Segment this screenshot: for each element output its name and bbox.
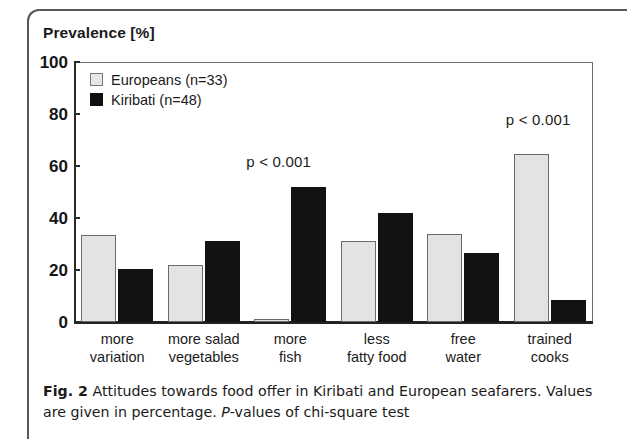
bar-kiribati-1: [205, 241, 240, 322]
y-tick-label: 40: [28, 210, 68, 227]
x-label-line2: water: [420, 348, 507, 366]
bar-chart: Prevalence [%] 020406080100 p < 0.001p <…: [0, 0, 613, 378]
chart-legend: Europeans (n=33) Kiribati (n=48): [90, 70, 227, 110]
x-label-line2: fish: [247, 348, 334, 366]
bar-europeans-3: [341, 241, 376, 322]
x-label-5: trainedcooks: [507, 330, 594, 366]
y-tick-label: 60: [28, 158, 68, 175]
bar-europeans-4: [427, 234, 462, 322]
x-axis-category-labels: morevariationmore saladvegetablesmorefis…: [74, 330, 593, 374]
x-label-line1: more: [274, 331, 307, 347]
caption-figure-number: Fig. 2: [43, 383, 88, 399]
bar-europeans-2: [254, 319, 289, 322]
y-tick-label: 100: [28, 54, 68, 71]
legend-item-kiribati: Kiribati (n=48): [90, 90, 227, 109]
x-label-line1: free: [451, 331, 476, 347]
x-label-line1: more: [101, 331, 134, 347]
x-label-1: more saladvegetables: [161, 330, 248, 366]
p-value-annotation-5: p < 0.001: [506, 111, 571, 128]
p-value-annotation-2: p < 0.001: [246, 153, 311, 170]
bar-kiribati-5: [551, 300, 586, 322]
bar-kiribati-0: [118, 269, 153, 322]
legend-label-europeans: Europeans (n=33): [111, 72, 227, 88]
x-label-line2: variation: [74, 348, 161, 366]
y-tick-label: 80: [28, 106, 68, 123]
legend-swatch-icon-europeans: [90, 73, 103, 86]
x-label-line1: trained: [528, 331, 572, 347]
bar-europeans-5: [514, 154, 549, 322]
x-label-line2: fatty food: [334, 348, 421, 366]
x-label-4: freewater: [420, 330, 507, 366]
legend-label-kiribati: Kiribati (n=48): [111, 92, 202, 108]
y-axis-title: Prevalence [%]: [43, 24, 155, 42]
legend-swatch-icon-kiribati: [90, 93, 103, 106]
figure-caption: Fig. 2 Attitudes towards food offer in K…: [43, 381, 603, 423]
caption-tail: -values of chi-square test: [230, 404, 410, 420]
x-label-0: morevariation: [74, 330, 161, 366]
caption-p-italic: P: [221, 404, 230, 420]
x-label-3: lessfatty food: [334, 330, 421, 366]
x-label-line2: cooks: [507, 348, 594, 366]
bar-kiribati-4: [464, 253, 499, 322]
x-label-line1: more salad: [168, 331, 240, 347]
bar-kiribati-3: [378, 213, 413, 322]
bar-kiribati-2: [291, 187, 326, 322]
legend-item-europeans: Europeans (n=33): [90, 70, 227, 89]
bar-europeans-0: [81, 235, 116, 322]
y-tick-label: 0: [28, 314, 68, 331]
x-label-2: morefish: [247, 330, 334, 366]
bar-europeans-1: [168, 265, 203, 322]
x-label-line1: less: [364, 331, 390, 347]
y-tick-label: 20: [28, 262, 68, 279]
x-label-line2: vegetables: [161, 348, 248, 366]
